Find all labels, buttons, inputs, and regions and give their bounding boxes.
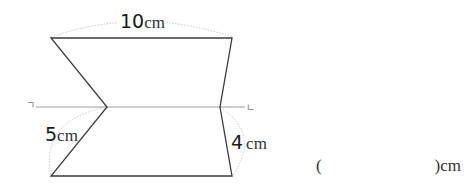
right-segment-unit: cm: [246, 134, 267, 153]
top-length-value: 10: [120, 10, 144, 32]
answer-unit: )cm: [435, 156, 461, 176]
fold-marker-right: ㄴ: [246, 103, 255, 113]
answer-blank[interactable]: ( )cm: [316, 156, 461, 176]
right-segment-label: 4cm: [229, 133, 269, 152]
left-segment-unit: cm: [57, 126, 78, 145]
left-segment-label: 5cm: [43, 125, 80, 144]
top-length-unit: cm: [144, 13, 165, 32]
right-segment-value: 4: [231, 131, 243, 153]
top-length-label: 10cm: [118, 12, 167, 31]
answer-input[interactable]: [322, 156, 435, 176]
fold-marker-left: ㄱ: [26, 101, 35, 111]
left-segment-value: 5: [45, 123, 57, 145]
